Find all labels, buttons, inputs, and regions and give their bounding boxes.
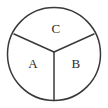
sector-label-b: B [72, 56, 81, 71]
three-sector-circle-diagram: A B C [0, 0, 108, 108]
figure-container: A B C [0, 0, 108, 108]
sector-label-a: A [28, 56, 38, 71]
sector-label-c: C [52, 21, 61, 36]
